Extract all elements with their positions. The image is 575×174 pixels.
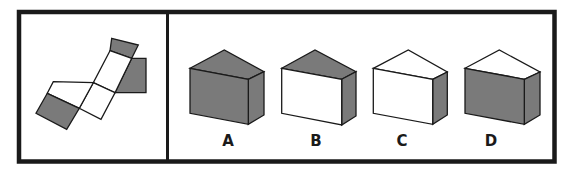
puzzle-figure: A B C D (0, 0, 575, 174)
option-c-side-face (433, 72, 448, 124)
option-b[interactable] (282, 50, 356, 125)
option-d-side-face (524, 72, 540, 124)
option-d-label: D (485, 132, 497, 150)
option-b-label: B (310, 132, 321, 150)
option-d[interactable] (465, 50, 540, 124)
option-a-label: A (222, 132, 234, 150)
option-c[interactable] (373, 50, 447, 124)
option-a[interactable] (190, 50, 264, 124)
prism-net (36, 38, 146, 129)
option-b-side-face (342, 72, 356, 125)
option-a-side-face (248, 72, 264, 125)
option-c-label: C (396, 132, 407, 150)
